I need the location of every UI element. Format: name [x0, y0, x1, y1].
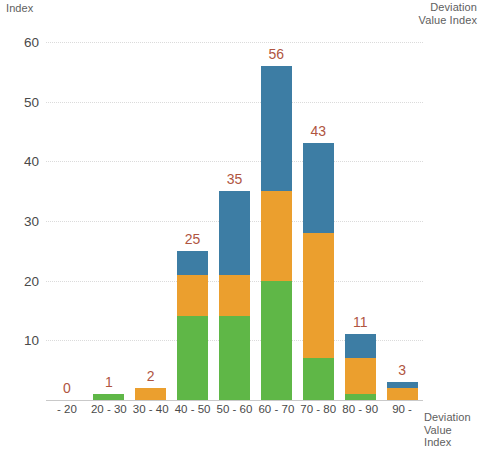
y-axis-tick-label: 30: [24, 213, 39, 228]
bar-segment-orange-segment[interactable]: [303, 233, 334, 358]
bar-group[interactable]: 35: [219, 191, 250, 400]
bar-segment-blue-segment[interactable]: [303, 143, 334, 233]
x-axis-title: Deviation Value Index: [424, 411, 479, 449]
x-axis-tick-label: 70 - 80: [300, 403, 336, 415]
x-axis-tick-label: 20 - 30: [91, 403, 127, 415]
bar-group[interactable]: 3: [387, 382, 418, 400]
bar-segment-orange-segment[interactable]: [261, 191, 292, 281]
bar-segment-green-segment[interactable]: [345, 394, 376, 400]
bar-segment-green-segment[interactable]: [303, 358, 334, 400]
bar-group[interactable]: 1: [93, 394, 124, 400]
y-axis-tick-label: 60: [24, 34, 39, 49]
bar-segment-blue-segment[interactable]: [177, 251, 208, 275]
bar-value-label: 11: [353, 314, 368, 330]
bar-group[interactable]: 2: [135, 388, 166, 400]
bar-value-label: 2: [147, 368, 155, 384]
bar-group[interactable]: 11: [345, 334, 376, 400]
bar-segment-orange-segment[interactable]: [387, 388, 418, 400]
y-axis-tick-label: 40: [24, 154, 39, 169]
bar-segment-green-segment[interactable]: [177, 316, 208, 400]
y-axis-title: Index: [6, 2, 33, 15]
bar-segment-green-segment[interactable]: [261, 281, 292, 400]
y-axis-tick-label: 50: [24, 94, 39, 109]
x-axis-tick-label: 60 - 70: [258, 403, 294, 415]
bar-value-label: 25: [185, 231, 201, 247]
x-axis-tick-label: 50 - 60: [217, 403, 253, 415]
plot-area: 102030405060 01225355643113: [46, 30, 423, 400]
bar-value-label: 35: [227, 171, 243, 187]
bar-segment-green-segment[interactable]: [93, 394, 124, 400]
y-axis-tick-label: 10: [24, 333, 39, 348]
bar-value-label: 1: [105, 374, 113, 390]
bar-series-container: 01225355643113: [46, 30, 423, 400]
bar-value-label: 43: [310, 123, 326, 139]
axis-baseline: [46, 400, 423, 401]
x-axis-tick-label: - 20: [57, 403, 77, 415]
legend-title: Deviation Value Index: [419, 1, 477, 26]
bar-value-label: 3: [398, 362, 406, 378]
bar-value-label: 56: [269, 46, 285, 62]
x-axis-tick-label: 30 - 40: [133, 403, 169, 415]
bar-segment-green-segment[interactable]: [219, 316, 250, 400]
bar-segment-blue-segment[interactable]: [219, 191, 250, 275]
bar-segment-orange-segment[interactable]: [219, 275, 250, 317]
y-axis-tick-label: 20: [24, 273, 39, 288]
bar-value-label: 0: [63, 380, 71, 396]
bar-segment-orange-segment[interactable]: [135, 388, 166, 400]
bar-group[interactable]: 25: [177, 251, 208, 400]
bar-segment-blue-segment[interactable]: [345, 334, 376, 358]
bar-segment-orange-segment[interactable]: [177, 275, 208, 317]
bar-segment-blue-segment[interactable]: [261, 66, 292, 191]
x-axis-tick-label: 40 - 50: [175, 403, 211, 415]
x-axis-tick-label: 80 - 90: [342, 403, 378, 415]
bar-group[interactable]: 56: [261, 66, 292, 400]
bar-group[interactable]: 43: [303, 143, 334, 400]
x-axis-tick-label: 90 -: [392, 403, 412, 415]
bar-segment-orange-segment[interactable]: [345, 358, 376, 394]
